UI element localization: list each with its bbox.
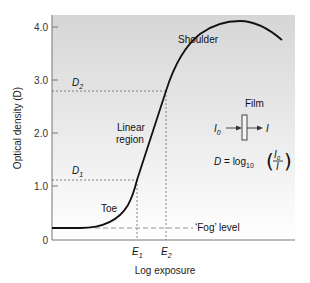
toe-label: Toe — [101, 203, 118, 214]
svg-text:): ) — [284, 149, 292, 173]
e2-label: E2 — [161, 246, 172, 259]
y-tick-label-4: 4.0 — [34, 22, 48, 33]
linear-region-label-line1: Linear — [117, 122, 145, 133]
linear-region-label-line2: region — [116, 134, 144, 145]
y-axis-title: Optical density (D) — [12, 87, 23, 169]
i-label: I — [266, 123, 269, 134]
y-tick-label-0: 0 — [42, 235, 48, 246]
characteristic-curve-chart: 4.0 3.0 2.0 1.0 0 Optical density (D) Lo… — [0, 0, 310, 283]
e1-label: E1 — [132, 246, 143, 259]
svg-text:I: I — [276, 161, 279, 172]
film-strip — [242, 115, 247, 140]
film-label: Film — [245, 98, 264, 109]
fog-level-label: ‘Fog’ level — [195, 222, 240, 233]
y-tick-label-1: 1.0 — [34, 181, 48, 192]
y-tick-label-2: 2.0 — [34, 128, 48, 139]
shoulder-label: Shoulder — [178, 34, 219, 45]
y-tick-label-3: 3.0 — [34, 75, 48, 86]
svg-text:(: ( — [266, 149, 274, 173]
x-axis-title: Log exposure — [135, 265, 196, 276]
